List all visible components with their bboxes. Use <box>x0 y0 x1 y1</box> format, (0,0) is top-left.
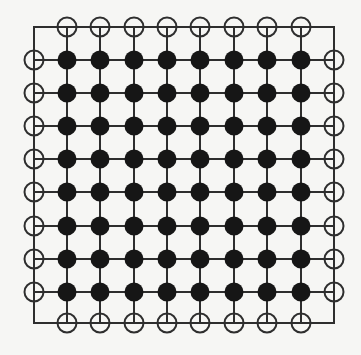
interior-node <box>292 183 311 202</box>
interior-node <box>258 183 277 202</box>
interior-node <box>225 51 244 70</box>
interior-node <box>125 117 144 136</box>
interior-node <box>292 84 311 103</box>
interior-node <box>191 117 210 136</box>
interior-node <box>91 183 110 202</box>
interior-node <box>225 150 244 169</box>
interior-node <box>191 183 210 202</box>
interior-node <box>91 84 110 103</box>
interior-node <box>258 150 277 169</box>
interior-node <box>58 150 77 169</box>
interior-node <box>91 150 110 169</box>
interior-node <box>58 51 77 70</box>
interior-node <box>58 217 77 236</box>
interior-node <box>58 283 77 302</box>
interior-node <box>292 51 311 70</box>
interior-node <box>91 117 110 136</box>
interior-node <box>292 150 311 169</box>
interior-node <box>158 51 177 70</box>
interior-node <box>158 283 177 302</box>
interior-node <box>292 217 311 236</box>
interior-node <box>191 51 210 70</box>
interior-node <box>225 183 244 202</box>
interior-node <box>58 117 77 136</box>
interior-node <box>292 250 311 269</box>
interior-node <box>58 84 77 103</box>
interior-node <box>125 84 144 103</box>
interior-node <box>125 183 144 202</box>
interior-node <box>292 117 311 136</box>
interior-node <box>258 217 277 236</box>
interior-node <box>91 250 110 269</box>
interior-nodes <box>58 51 311 302</box>
interior-node <box>191 84 210 103</box>
interior-node <box>158 150 177 169</box>
interior-node <box>158 117 177 136</box>
interior-node <box>225 283 244 302</box>
interior-node <box>125 283 144 302</box>
interior-node <box>225 84 244 103</box>
interior-node <box>125 51 144 70</box>
interior-node <box>58 183 77 202</box>
interior-node <box>258 84 277 103</box>
interior-node <box>258 283 277 302</box>
interior-node <box>191 283 210 302</box>
interior-node <box>191 250 210 269</box>
interior-node <box>58 250 77 269</box>
interior-node <box>225 250 244 269</box>
interior-node <box>191 150 210 169</box>
lattice-diagram <box>0 0 361 355</box>
interior-node <box>292 283 311 302</box>
grid-lines <box>34 27 334 323</box>
interior-node <box>125 217 144 236</box>
interior-node <box>158 84 177 103</box>
interior-node <box>258 250 277 269</box>
frame-rect <box>34 27 334 323</box>
interior-node <box>225 217 244 236</box>
interior-node <box>258 117 277 136</box>
interior-node <box>91 51 110 70</box>
interior-node <box>158 250 177 269</box>
interior-node <box>158 217 177 236</box>
boundary-frame <box>34 27 334 323</box>
interior-node <box>225 117 244 136</box>
interior-node <box>191 217 210 236</box>
interior-node <box>125 150 144 169</box>
interior-node <box>91 283 110 302</box>
interior-node <box>125 250 144 269</box>
interior-node <box>258 51 277 70</box>
interior-node <box>91 217 110 236</box>
interior-node <box>158 183 177 202</box>
